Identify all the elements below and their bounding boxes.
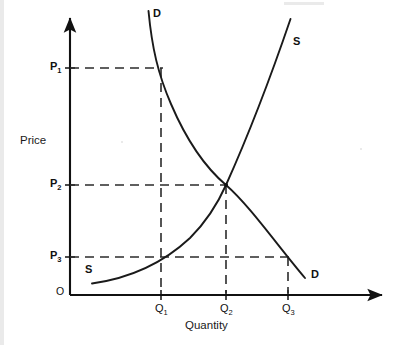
scan-artifact bbox=[121, 141, 123, 143]
quantity-tick-label-q3: Q3 bbox=[282, 303, 295, 314]
price-tick-label-p3: P3 bbox=[50, 250, 62, 261]
price-tick-label-p2: P2 bbox=[50, 178, 62, 189]
price-tick-sub-p3: 3 bbox=[57, 255, 61, 264]
scan-artifact bbox=[360, 148, 362, 150]
price-tick-sub-p2: 2 bbox=[57, 183, 61, 192]
quantity-tick-letter-q2: Q bbox=[220, 302, 229, 314]
dashed-guides-group bbox=[70, 68, 290, 293]
x-axis-label: Quantity bbox=[185, 320, 228, 332]
quantity-tick-sub-q1: 1 bbox=[164, 308, 168, 317]
quantity-tick-label-q2: Q2 bbox=[220, 303, 233, 314]
figure-canvas: Price Quantity O P1 P2 P3 Q1 Q2 Q3 D S S… bbox=[0, 0, 407, 345]
price-tick-sub-p1: 1 bbox=[57, 66, 61, 75]
origin-label: O bbox=[56, 286, 64, 297]
quantity-tick-sub-q2: 2 bbox=[229, 308, 233, 317]
quantity-tick-letter-q1: Q bbox=[155, 302, 164, 314]
equilibrium-point bbox=[224, 183, 228, 187]
scan-artifact bbox=[284, 2, 324, 5]
supply-curve-label-bottom: S bbox=[85, 264, 92, 275]
demand-curve-label-top: D bbox=[153, 8, 161, 19]
supply-curve-label-top: S bbox=[293, 36, 300, 47]
price-tick-label-p1: P1 bbox=[50, 61, 62, 72]
demand-curve-label-bottom: D bbox=[311, 269, 319, 280]
quantity-tick-sub-q3: 3 bbox=[291, 308, 295, 317]
supply-curve bbox=[92, 19, 291, 284]
quantity-tick-letter-q3: Q bbox=[282, 302, 291, 314]
quantity-tick-label-q1: Q1 bbox=[155, 303, 168, 314]
y-axis-label: Price bbox=[20, 135, 46, 147]
scan-artifact bbox=[0, 0, 4, 345]
